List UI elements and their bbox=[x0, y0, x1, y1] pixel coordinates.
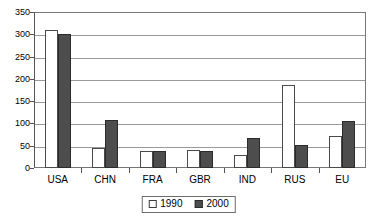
x-axis-tickmark bbox=[224, 168, 225, 173]
x-axis-tickmark bbox=[271, 168, 272, 173]
x-axis-tickmark bbox=[319, 168, 320, 173]
x-axis-label-rus: RUS bbox=[271, 174, 318, 186]
y-axis-tickmark bbox=[30, 57, 34, 58]
x-axis-tickmarks bbox=[34, 168, 366, 173]
legend-item-2000: 2000 bbox=[195, 198, 229, 210]
y-axis-tick-label: 300 bbox=[2, 30, 30, 39]
x-axis-label-gbr: GBR bbox=[176, 174, 223, 186]
x-axis-tickmark bbox=[176, 168, 177, 173]
legend-label: 1990 bbox=[160, 198, 182, 210]
y-axis-tickmark bbox=[30, 146, 34, 147]
x-axis-labels: USACHNFRAGBRINDRUSEU bbox=[34, 174, 366, 186]
x-axis-label-chn: CHN bbox=[81, 174, 128, 186]
plot-area bbox=[34, 12, 366, 168]
gridline bbox=[35, 58, 365, 59]
y-axis-tick-label: 0 bbox=[2, 164, 30, 173]
y-axis-tickmark bbox=[30, 34, 34, 35]
gridline bbox=[35, 80, 365, 81]
y-axis-tick-label: 350 bbox=[2, 8, 30, 17]
x-axis-tickmark bbox=[129, 168, 130, 173]
gridline bbox=[35, 124, 365, 125]
legend-item-1990: 1990 bbox=[148, 198, 182, 210]
y-axis-tickmark bbox=[30, 168, 34, 169]
bar-chart: USACHNFRAGBRINDRUSEU 1990 2000 050100150… bbox=[0, 0, 377, 220]
y-axis-tickmark bbox=[30, 123, 34, 124]
gridline bbox=[35, 147, 365, 148]
x-axis-label-ind: IND bbox=[224, 174, 271, 186]
y-axis-tick-label: 100 bbox=[2, 119, 30, 128]
y-axis-tick-label: 50 bbox=[2, 142, 30, 151]
y-axis-tickmark bbox=[30, 79, 34, 80]
legend-swatch-filled-square-icon bbox=[195, 200, 203, 208]
y-axis-tickmark bbox=[30, 101, 34, 102]
x-axis-label-usa: USA bbox=[34, 174, 81, 186]
y-axis-tickmark bbox=[30, 12, 34, 13]
y-axis-tick-label: 200 bbox=[2, 75, 30, 84]
x-axis-label-eu: EU bbox=[319, 174, 366, 186]
y-axis-tick-label: 150 bbox=[2, 97, 30, 106]
chart-legend: 1990 2000 bbox=[141, 196, 236, 213]
gridline bbox=[35, 35, 365, 36]
legend-label: 2000 bbox=[207, 198, 229, 210]
y-axis-tick-label: 250 bbox=[2, 53, 30, 62]
x-axis-label-fra: FRA bbox=[129, 174, 176, 186]
legend-swatch-open-square-icon bbox=[148, 200, 156, 208]
x-axis-tickmark bbox=[81, 168, 82, 173]
gridline bbox=[35, 102, 365, 103]
